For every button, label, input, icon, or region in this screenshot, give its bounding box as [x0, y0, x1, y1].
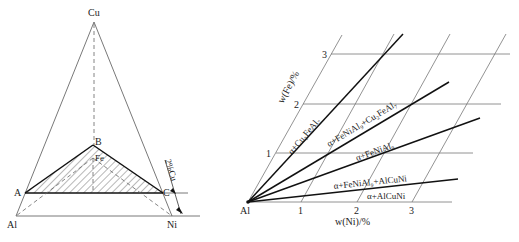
label-b: B [95, 136, 102, 147]
label-dimension-cu: 2%Cu [163, 158, 179, 183]
right-phase-diagram: Al 1 2 3 1 2 3 w(Ni)/% w(Fe)/% α+Cu₂FeAl… [240, 34, 510, 228]
label-fe: Fe [95, 153, 104, 163]
y-tick-2: 2 [294, 99, 299, 110]
left-pyramid-diagram: Cu Al Ni A B C Fe 2%Cu [7, 7, 200, 230]
x-tick-2: 2 [354, 205, 359, 216]
y-tick-3: 3 [322, 49, 327, 60]
figure-canvas: Cu Al Ni A B C Fe 2%Cu Al 1 2 3 1 2 [0, 0, 519, 242]
origin-point [246, 200, 250, 204]
label-cu: Cu [88, 7, 100, 18]
gridline-ni-3 [412, 34, 506, 202]
dimension-arrow-icon [176, 207, 183, 214]
label-c: C [163, 187, 170, 198]
region-label-alpha-fenial9: α+FeNiAl₉ [354, 140, 395, 163]
hatched-region-abc [25, 145, 163, 193]
label-origin-al: Al [240, 205, 250, 216]
x-axis-title: w(Ni)/% [335, 216, 370, 228]
label-al: Al [7, 219, 17, 230]
x-tick-1: 1 [298, 205, 303, 216]
label-a: A [14, 187, 22, 198]
label-ni: Ni [167, 219, 177, 230]
region-label-alpha-cu2feal7: α+Cu₂FeAl₇ [286, 116, 322, 157]
fe-axis [248, 35, 342, 202]
region-label-alpha-alcuni: α+AlCuNi [367, 191, 406, 201]
y-tick-1: 1 [266, 148, 271, 159]
x-tick-3: 3 [409, 205, 414, 216]
